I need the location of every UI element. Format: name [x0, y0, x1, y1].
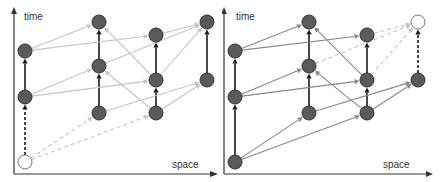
node-A1	[228, 44, 242, 58]
node-B2	[92, 59, 106, 73]
space-axis-label: space	[383, 159, 410, 170]
node-A1	[18, 44, 32, 58]
node-C1	[149, 28, 163, 42]
right-spacetime-graph: time space	[222, 0, 444, 182]
node-B2	[302, 59, 316, 73]
edge-A1-B1	[242, 27, 298, 49]
node-B3	[302, 106, 316, 120]
edge-C3-D2	[373, 87, 408, 109]
arrowhead-icon	[143, 34, 148, 39]
time-axis-arrow-icon	[11, 7, 17, 14]
space-axis-arrow-icon	[426, 171, 433, 177]
edge-C2-D1	[161, 31, 199, 74]
edge-A1-C1	[242, 37, 355, 51]
edge-A0-C3	[242, 117, 356, 159]
node-A0	[228, 155, 242, 169]
arrowhead-icon	[22, 59, 27, 64]
node-B1	[92, 15, 106, 29]
edge-A2-B2	[31, 71, 87, 94]
arrowhead-icon	[364, 88, 369, 93]
time-axis-label: time	[236, 11, 255, 22]
edge-layer	[22, 23, 209, 160]
space-axis-label: space	[172, 159, 199, 170]
arrowhead-icon	[204, 30, 209, 35]
node-layer	[18, 15, 214, 169]
edge-B3-D2	[106, 84, 195, 111]
left-panel-diagram: time space	[0, 0, 222, 182]
node-layer	[228, 15, 425, 169]
arrowhead-icon	[415, 30, 420, 35]
arrowhead-icon	[354, 79, 359, 84]
edge-A1-C1	[32, 37, 144, 51]
arrowhead-icon	[87, 117, 93, 122]
edge-A0-C3	[32, 117, 145, 159]
arrowhead-icon	[364, 43, 369, 48]
open-node-A0	[18, 155, 32, 169]
node-A2	[228, 90, 242, 104]
right-panel-diagram: time space	[222, 0, 444, 182]
edge-layer	[232, 23, 420, 160]
node-B1	[302, 15, 316, 29]
arrowhead-icon	[153, 88, 158, 93]
edge-B3-D2	[316, 84, 406, 111]
node-C3	[149, 106, 163, 120]
time-axis-arrow-icon	[222, 7, 227, 14]
node-B3	[92, 106, 106, 120]
arrowhead-icon	[297, 117, 303, 122]
arrowhead-icon	[22, 105, 27, 110]
edge-C3-D2	[162, 87, 197, 109]
space-axis-arrow-icon	[210, 171, 218, 177]
node-D1	[200, 15, 214, 29]
edge-A2-B2	[241, 71, 297, 94]
arrowhead-icon	[96, 30, 101, 35]
node-C1	[360, 28, 374, 42]
arrowhead-icon	[232, 105, 237, 110]
arrowhead-icon	[306, 74, 311, 79]
node-C3	[360, 106, 374, 120]
left-spacetime-graph: time space	[0, 0, 222, 182]
arrowhead-icon	[232, 59, 237, 64]
edge-A0-B3	[31, 120, 89, 158]
node-D2	[200, 73, 214, 87]
node-A2	[18, 90, 32, 104]
arrowhead-icon	[354, 34, 359, 39]
node-D2	[411, 73, 425, 87]
arrowhead-icon	[143, 79, 148, 84]
open-node-D1	[411, 15, 425, 29]
time-axis-label: time	[24, 11, 43, 22]
arrowhead-icon	[96, 74, 101, 79]
node-C2	[360, 73, 374, 87]
edge-A1-B1	[32, 27, 88, 49]
edge-A0-B3	[241, 120, 299, 158]
node-C2	[149, 73, 163, 87]
arrowhead-icon	[306, 30, 311, 35]
